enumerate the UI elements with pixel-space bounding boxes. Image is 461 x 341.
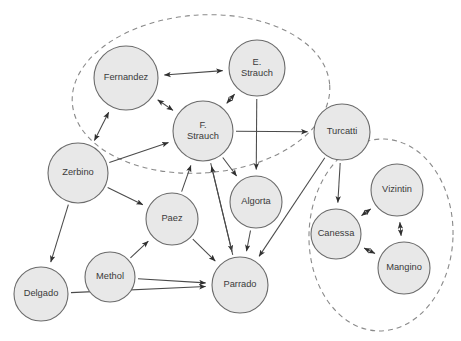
node-zerbino[interactable]: Zerbino (48, 143, 108, 203)
node-circle-turcatti[interactable] (314, 104, 370, 160)
node-fernandez[interactable]: Fernandez (94, 46, 158, 110)
graph-canvas: FernandezE.StrauchF.StrauchTurcattiZerbi… (0, 0, 461, 341)
node-vizintin[interactable]: Vizintin (371, 164, 423, 216)
node-circle-methol[interactable] (85, 252, 135, 302)
node-circle-paez[interactable] (146, 193, 198, 245)
node-circle-fernandez[interactable] (94, 46, 158, 110)
edge-parrado-to-f_strauch (212, 166, 233, 254)
node-methol[interactable]: Methol (85, 252, 135, 302)
node-circle-mangino[interactable] (378, 242, 430, 294)
edge-canessa-to-mangino (364, 248, 375, 253)
node-e_strauch[interactable]: E.Strauch (229, 40, 285, 96)
edge-methol-to-parrado (138, 279, 206, 283)
node-circle-zerbino[interactable] (48, 143, 108, 203)
edge-zerbino-to-delgado (51, 205, 69, 263)
edge-methol-to-paez (130, 241, 148, 258)
node-circle-delgado[interactable] (14, 267, 68, 321)
edge-zerbino-to-f_strauch (109, 143, 168, 163)
node-circle-algorta[interactable] (230, 176, 282, 228)
node-turcatti[interactable]: Turcatti (314, 104, 370, 160)
edge-paez-to-f_strauch (182, 165, 191, 191)
node-circle-vizintin[interactable] (371, 164, 423, 216)
edge-zerbino-to-paez (108, 188, 143, 205)
node-circle-canessa[interactable] (311, 209, 361, 259)
node-paez[interactable]: Paez (146, 193, 198, 245)
node-circle-parrado[interactable] (212, 257, 268, 313)
nodes-layer: FernandezE.StrauchF.StrauchTurcattiZerbi… (14, 40, 430, 321)
edge-f_strauch-to-turcatti (236, 131, 308, 132)
edge-algorta-to-parrado (247, 230, 251, 251)
node-parrado[interactable]: Parrado (212, 257, 268, 313)
edge-fernandez-to-e_strauch (164, 71, 222, 75)
node-circle-f_strauch[interactable] (173, 101, 233, 161)
edge-paez-to-parrado (193, 239, 216, 261)
edge-f_strauch-to-algorta (223, 157, 237, 176)
node-algorta[interactable]: Algorta (230, 176, 282, 228)
node-f_strauch[interactable]: F.Strauch (173, 101, 233, 161)
edge-fernandez-to-f_strauch (158, 100, 173, 111)
edge-vizintin-to-mangino (400, 222, 401, 235)
node-mangino[interactable]: Mangino (378, 242, 430, 294)
edge-e_strauch-to-f_strauch (227, 94, 235, 103)
network-diagram: FernandezE.StrauchF.StrauchTurcattiZerbi… (0, 0, 461, 341)
node-canessa[interactable]: Canessa (311, 209, 361, 259)
node-delgado[interactable]: Delgado (14, 267, 68, 321)
edge-canessa-to-vizintin (361, 209, 370, 216)
edge-e_strauch-to-algorta (256, 99, 257, 170)
node-circle-e_strauch[interactable] (229, 40, 285, 96)
edge-turcatti-to-canessa (338, 163, 340, 203)
edge-zerbino-to-fernandez (94, 112, 108, 140)
